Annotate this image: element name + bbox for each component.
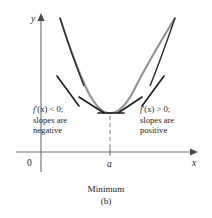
x-axis-label: x: [191, 158, 197, 168]
annotation-right-line1: f′(x) > 0;: [140, 104, 170, 114]
annotation-left-line3: negative: [33, 125, 62, 135]
annotation-left-arg: (x) < 0;: [37, 104, 63, 114]
annotation-right-line2: slopes are: [140, 115, 174, 125]
annotation-right-line3: positive: [140, 125, 167, 135]
caption-part-label: (b): [101, 196, 112, 206]
critical-point-label: a: [107, 159, 112, 169]
annotation-left-line2: slopes are: [33, 115, 67, 125]
caption-title: Minimum: [88, 184, 125, 194]
annotation-right-arg: (x) > 0;: [144, 104, 170, 114]
origin-label: 0: [27, 158, 32, 168]
figure-container: y x 0 a f′(x) < 0; slopes are negative f…: [0, 0, 212, 218]
y-axis-label: y: [30, 14, 36, 24]
minimum-derivative-diagram: y x 0 a f′(x) < 0; slopes are negative f…: [0, 0, 212, 218]
annotation-left-line1: f′(x) < 0;: [33, 104, 63, 114]
